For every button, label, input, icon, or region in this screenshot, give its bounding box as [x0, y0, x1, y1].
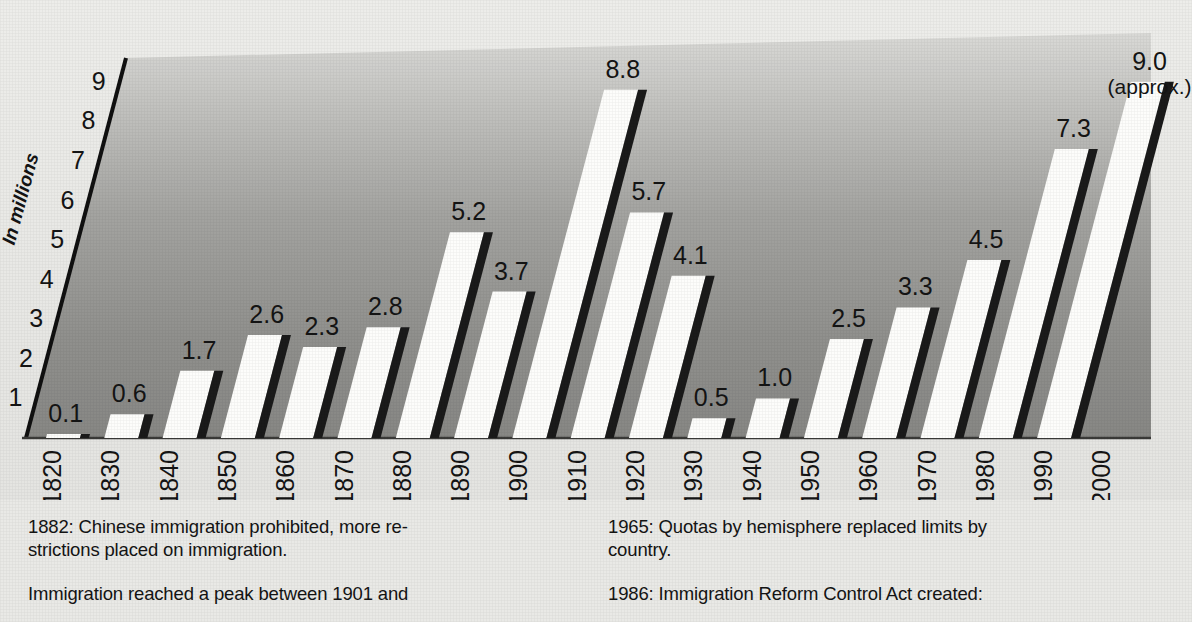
bar-value-label: 7.3	[1056, 114, 1091, 142]
x-axis-tick-label: 1930	[679, 450, 707, 500]
footnote-left-1-line2: strictions placed on immigration.	[28, 539, 287, 560]
footnotes-region: 1882: Chinese immigration prohibited, mo…	[0, 500, 1192, 622]
x-axis-tick-label: 1830	[96, 450, 124, 500]
footnote-right-2-line1: 1986: Immigration Reform Control Act cre…	[608, 583, 983, 604]
footnotes-left-column: 1882: Chinese immigration prohibited, mo…	[28, 500, 588, 622]
footnote-right-1-line2: country.	[608, 539, 671, 560]
x-axis-tick-label: 1980	[971, 450, 999, 500]
bar-value-label: 2.3	[304, 312, 339, 340]
bar-value-label: 2.5	[831, 304, 866, 332]
bar	[687, 418, 726, 438]
bar-value-label: 1.7	[182, 336, 217, 364]
bar-value-label: 4.1	[673, 241, 708, 269]
x-axis-tick-label: 1850	[213, 450, 241, 500]
bar-shadow-edge	[80, 434, 90, 438]
y-axis-tick-label: 5	[50, 225, 64, 253]
x-axis-tick-label: 1840	[155, 450, 183, 500]
y-axis-tick-label: 2	[19, 344, 33, 372]
approx-label: (approx.)	[1108, 75, 1192, 98]
bar-value-label: 0.6	[112, 379, 147, 407]
immigration-bar-chart-figure: In millions 123456789 0.10.61.72.62.32.8…	[0, 0, 1192, 622]
chart-plot-area: In millions 123456789 0.10.61.72.62.32.8…	[0, 0, 1192, 500]
x-axis-tick-label: 1820	[38, 450, 66, 500]
bar-value-label: 3.7	[494, 257, 529, 285]
y-axis-tick-label: 6	[61, 186, 75, 214]
bar-value-label: 2.6	[249, 300, 284, 328]
footnote-right-2: 1986: Immigration Reform Control Act cre…	[608, 583, 1168, 606]
y-axis-tick-label: 3	[29, 304, 43, 332]
bar-value-label: 8.8	[605, 55, 640, 83]
bar-chart-svg: In millions 123456789 0.10.61.72.62.32.8…	[0, 0, 1192, 500]
x-axis-tick-label: 1960	[854, 450, 882, 500]
x-axis-tick-label: 1910	[563, 450, 591, 500]
footnote-right-1: 1965: Quotas by hemisphere replaced limi…	[608, 516, 1168, 561]
bar-value-label: 0.1	[48, 399, 83, 427]
bar-value-label: 3.3	[898, 272, 933, 300]
bar-value-label: 5.2	[451, 197, 486, 225]
x-axis-tick-label: 1950	[796, 450, 824, 500]
footnote-left-2-line1: Immigration reached a peak between 1901 …	[28, 583, 408, 604]
x-axis-tick-label: 1860	[271, 450, 299, 500]
footnotes-right-column: 1965: Quotas by hemisphere replaced limi…	[608, 500, 1168, 622]
x-axis-tick-label: 2000	[1087, 450, 1115, 500]
footnote-left-2: Immigration reached a peak between 1901 …	[28, 583, 588, 606]
x-axis-tick-label: 1870	[330, 450, 358, 500]
x-axis-tick-label: 1900	[504, 450, 532, 500]
x-axis-tick-label: 1920	[621, 450, 649, 500]
x-axis-tick-label: 1970	[913, 450, 941, 500]
y-axis-tick-label: 9	[92, 67, 106, 95]
x-axis-tick-label: 1990	[1029, 450, 1057, 500]
y-axis-tick-label: 8	[81, 106, 95, 134]
bar-value-label: 5.7	[631, 177, 666, 205]
approx-annotation: (approx.)	[1108, 75, 1192, 98]
footnote-left-1-line1: 1882: Chinese immigration prohibited, mo…	[28, 516, 408, 537]
x-axis-tick-label: 1940	[738, 450, 766, 500]
bar	[46, 434, 81, 438]
x-axis-tick-label: 1880	[388, 450, 416, 500]
y-axis-tick-label: 1	[9, 383, 23, 411]
bar-value-label: 2.8	[368, 292, 403, 320]
x-axis-tick-label: 1890	[446, 450, 474, 500]
bar	[104, 414, 144, 438]
bar-value-label: 9.0	[1132, 47, 1167, 75]
bar-value-label: 1.0	[757, 363, 792, 391]
footnote-left-1: 1882: Chinese immigration prohibited, mo…	[28, 516, 588, 561]
footnote-right-1-line1: 1965: Quotas by hemisphere replaced limi…	[608, 516, 987, 537]
y-axis-tick-label: 4	[40, 265, 54, 293]
bar-value-label: 0.5	[694, 383, 729, 411]
bar-value-label: 4.5	[969, 225, 1004, 253]
y-axis-tick-label: 7	[71, 146, 85, 174]
